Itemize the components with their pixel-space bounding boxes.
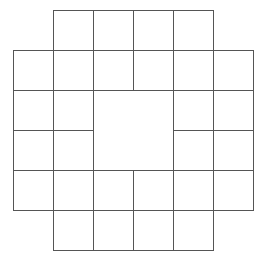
grid-cell bbox=[213, 90, 254, 131]
grid-cell bbox=[53, 170, 94, 211]
grid-cell bbox=[173, 90, 214, 131]
grid-cell bbox=[173, 50, 214, 91]
grid-cell bbox=[93, 170, 134, 211]
grid-cell bbox=[173, 170, 214, 211]
grid-cell bbox=[93, 210, 134, 251]
grid-cell bbox=[93, 10, 134, 51]
grid-cell bbox=[53, 210, 94, 251]
grid-cell bbox=[53, 10, 94, 51]
grid-cell bbox=[213, 170, 254, 211]
grid-diagram bbox=[0, 0, 268, 265]
grid-cell bbox=[133, 10, 174, 51]
grid-cell bbox=[173, 10, 214, 51]
grid-cell bbox=[53, 90, 94, 131]
grid-cell bbox=[13, 90, 54, 131]
grid-cell bbox=[133, 170, 174, 211]
grid-cell bbox=[93, 50, 134, 91]
grid-cell bbox=[173, 130, 214, 171]
grid-cell bbox=[13, 130, 54, 171]
grid-cell bbox=[13, 50, 54, 91]
grid-cell bbox=[133, 210, 174, 251]
grid-center-block bbox=[93, 90, 174, 171]
grid-cell bbox=[213, 50, 254, 91]
grid-cell bbox=[53, 50, 94, 91]
grid-cell bbox=[173, 210, 214, 251]
grid-cell bbox=[213, 130, 254, 171]
grid-cell bbox=[13, 170, 54, 211]
grid-cell bbox=[133, 50, 174, 91]
grid-cell bbox=[53, 130, 94, 171]
